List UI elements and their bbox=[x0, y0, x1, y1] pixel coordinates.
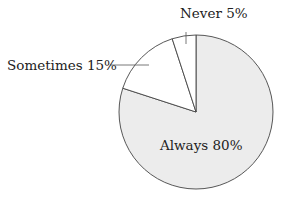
pie-chart: Never 5% Sometimes 15% Always 80% bbox=[0, 0, 284, 203]
label-never: Never 5% bbox=[180, 5, 248, 21]
label-always: Always 80% bbox=[159, 137, 243, 153]
label-sometimes: Sometimes 15% bbox=[7, 57, 117, 73]
